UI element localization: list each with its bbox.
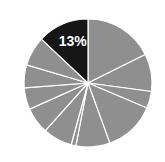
highlight-slice-label: 13% <box>59 33 88 49</box>
pie-chart: 13% <box>0 0 165 162</box>
pie-slices <box>24 19 152 147</box>
